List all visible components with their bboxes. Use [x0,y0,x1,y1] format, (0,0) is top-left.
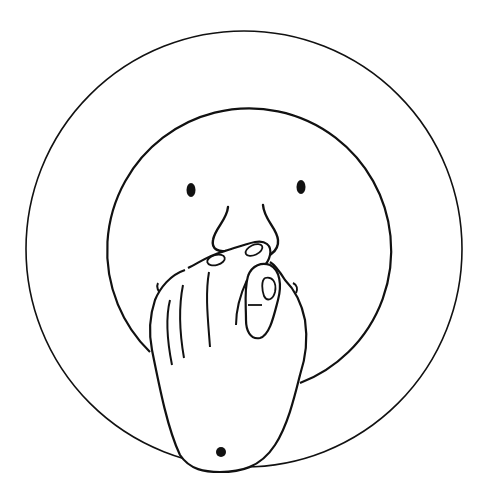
left-eye-icon [187,183,196,197]
wrist-dot [216,447,226,457]
hand [150,242,306,472]
right-eye-icon [297,180,306,194]
illustration-canvas [0,0,484,503]
hand-outline [150,262,306,472]
